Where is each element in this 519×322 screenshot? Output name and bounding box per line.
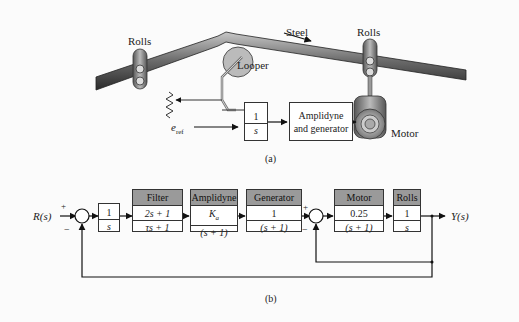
motor-block: 0.25(s + 1) bbox=[334, 205, 384, 232]
motor-label: Motor bbox=[391, 128, 419, 139]
looper-label: Looper bbox=[237, 60, 269, 71]
caption-b: (b) bbox=[265, 293, 277, 304]
steel-label: Steel bbox=[286, 27, 308, 38]
sum1-minus: − bbox=[64, 225, 70, 235]
output-label: Y(s) bbox=[451, 211, 469, 222]
potentiometer-icon bbox=[166, 92, 222, 118]
amplidyne-title: Amplidyne bbox=[190, 189, 238, 206]
filter-title: Filter bbox=[132, 189, 183, 206]
rolls-block: 1s bbox=[393, 205, 421, 232]
rolls-title: Rolls bbox=[393, 189, 421, 206]
looper-icon bbox=[222, 47, 253, 110]
motor-icon bbox=[354, 96, 386, 139]
integrator-block-a: 1s bbox=[244, 102, 268, 141]
right-rolls-icon bbox=[363, 39, 377, 96]
left-rolls-icon bbox=[133, 49, 147, 89]
input-label: R(s) bbox=[33, 211, 51, 222]
amplidyne-block: Ka(s + 1) bbox=[190, 205, 238, 232]
filter-block: 2s + 1τs + 1 bbox=[132, 205, 183, 232]
steel-strip bbox=[96, 32, 466, 90]
sum2-plus: + bbox=[303, 203, 308, 212]
generator-title: Generator bbox=[246, 189, 302, 206]
sum2-minus: − bbox=[302, 225, 308, 235]
eref-label: eref bbox=[171, 122, 184, 136]
rolls-right-label: Rolls bbox=[357, 27, 380, 38]
rolls-left-label: Rolls bbox=[128, 36, 151, 47]
sum1-plus: + bbox=[61, 202, 66, 211]
amplidyne-generator-block: Amplidyne and generator bbox=[289, 102, 353, 141]
caption-a: (a) bbox=[265, 153, 276, 164]
motor-title: Motor bbox=[334, 189, 384, 206]
diagram-graphics bbox=[0, 0, 519, 322]
generator-block: 1(s + 1) bbox=[246, 205, 302, 232]
integrator-block: 1s bbox=[98, 203, 120, 232]
